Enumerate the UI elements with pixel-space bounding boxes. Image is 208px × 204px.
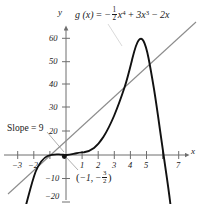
- graph-figure: g (x)=−12x4+3x3−2x y x 60 50 40 30 20 −1…: [0, 0, 208, 204]
- formula-equals: =: [96, 9, 103, 20]
- y-tick-label-60: 60: [49, 34, 58, 43]
- formula-term1-exponent: 4: [122, 9, 125, 16]
- y-tick-label-40: 40: [49, 80, 58, 89]
- x-tick-label-neg2: −2: [28, 161, 38, 170]
- y-tick-label-20: 20: [49, 127, 58, 136]
- y-tick-label-neg20: −20: [45, 192, 59, 201]
- function-formula: g (x)=−12x4+3x3−2x: [75, 7, 169, 23]
- tangency-point-marker: [62, 154, 67, 159]
- point-y-fraction: 32: [102, 170, 107, 185]
- point-close-paren: ): [108, 172, 112, 183]
- formula-term3: 2x: [160, 9, 169, 20]
- y-tick-label-30: 30: [49, 103, 58, 112]
- x-tick-label-7: 7: [176, 161, 180, 170]
- formula-plus: +: [128, 9, 135, 20]
- point-leader-line: [66, 157, 78, 170]
- formula-leader-line: [108, 24, 122, 46]
- point-x-value: −1,: [80, 173, 94, 183]
- formula-minus: −: [104, 9, 111, 20]
- point-annotation: (−1,−32): [76, 170, 111, 185]
- slope-annotation: Slope = 9: [7, 124, 44, 134]
- x-tick-label-5: 5: [144, 161, 148, 170]
- formula-coef-denominator: 2: [112, 15, 118, 22]
- point-y-minus: −: [95, 173, 101, 183]
- x-tick-label-neg3: −3: [12, 161, 22, 170]
- x-axis: [4, 151, 185, 159]
- y-axis: [62, 30, 70, 202]
- formula-minus2: −: [151, 9, 158, 20]
- point-y-denominator: 2: [102, 178, 107, 185]
- formula-term2-exponent: 3: [146, 9, 149, 16]
- x-axis-name: x: [191, 147, 195, 156]
- y-tick-label-neg10: −10: [45, 174, 59, 183]
- x-tick-label-4: 4: [128, 161, 132, 170]
- x-tick-label-2: 2: [96, 161, 100, 170]
- formula-term2: 3x: [136, 9, 145, 20]
- y-axis-name: y: [58, 8, 62, 17]
- y-tick-label-50: 50: [49, 57, 58, 66]
- formula-gofx: g (x): [75, 9, 94, 20]
- formula-coefficient-half: 12: [112, 7, 118, 23]
- x-tick-label-3: 3: [112, 161, 116, 170]
- x-tick-label-1: 1: [80, 161, 84, 170]
